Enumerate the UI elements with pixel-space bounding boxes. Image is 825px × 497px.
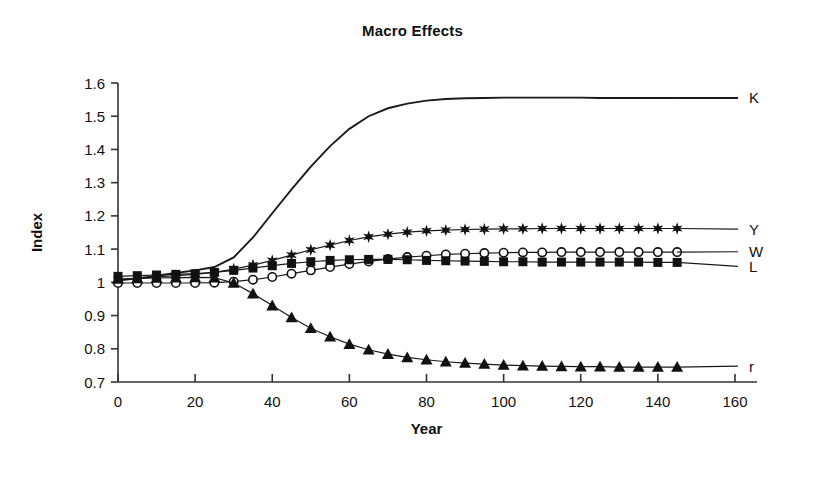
data-point-marker: [305, 322, 317, 333]
series-label-leader: [677, 262, 738, 266]
series-line: [118, 229, 677, 280]
y-axis-tick-label: 1.3: [84, 174, 105, 191]
data-point-marker: [266, 300, 278, 311]
data-point-marker: [634, 258, 643, 267]
data-point-marker: [268, 261, 277, 270]
data-point-marker: [518, 257, 527, 266]
series-line: [118, 252, 677, 283]
data-point-marker: [343, 338, 355, 349]
data-point-marker: [654, 248, 662, 256]
x-axis-tick-label: 160: [722, 393, 747, 410]
data-point-marker: [229, 266, 238, 275]
data-point-marker: [286, 312, 298, 323]
macro-effects-line-chart: 0.70.80.911.11.21.31.41.51.6020406080100…: [0, 0, 825, 497]
x-axis-title: Year: [411, 420, 443, 437]
y-axis-tick-label: 0.8: [84, 340, 105, 357]
data-point-marker: [480, 249, 488, 257]
data-point-marker: [383, 255, 392, 264]
data-point-marker: [324, 331, 336, 342]
x-axis-tick-label: 120: [568, 393, 593, 410]
x-axis-tick-label: 20: [187, 393, 204, 410]
x-axis-tick-label: 60: [341, 393, 358, 410]
series-line: [118, 277, 677, 367]
data-point-marker: [287, 259, 296, 268]
data-point-marker: [403, 255, 412, 264]
data-point-marker: [325, 239, 336, 251]
series-label-Y: Y: [749, 221, 759, 238]
data-point-marker: [499, 257, 508, 266]
data-point-marker: [461, 257, 470, 266]
data-point-marker: [615, 258, 624, 267]
data-point-marker: [594, 361, 606, 372]
data-point-marker: [248, 264, 257, 273]
chart-root: Macro Effects 0.70.80.911.11.21.31.41.51…: [0, 0, 825, 497]
data-point-marker: [345, 255, 354, 264]
data-point-marker: [306, 257, 315, 266]
data-point-marker: [615, 248, 623, 256]
series-label-L: L: [749, 258, 757, 275]
data-point-marker: [653, 258, 662, 267]
series-line: [118, 259, 677, 276]
data-point-marker: [577, 248, 585, 256]
data-point-marker: [441, 256, 450, 265]
data-point-marker: [363, 344, 375, 355]
x-axis-tick-label: 140: [645, 393, 670, 410]
x-axis-tick-label: 40: [264, 393, 281, 410]
data-point-marker: [307, 266, 315, 274]
data-point-marker: [557, 258, 566, 267]
data-point-marker: [364, 255, 373, 264]
data-point-marker: [326, 256, 335, 265]
series-label-K: K: [749, 89, 759, 106]
data-point-marker: [422, 256, 431, 265]
x-axis-tick-label: 0: [114, 393, 122, 410]
data-point-marker: [576, 258, 585, 267]
data-point-marker: [596, 248, 604, 256]
series-label-leader: [677, 366, 738, 367]
y-axis-tick-label: 1: [97, 274, 105, 291]
data-point-marker: [344, 234, 355, 246]
y-axis-tick-label: 0.9: [84, 307, 105, 324]
series-label-leader: [677, 229, 738, 230]
data-point-marker: [499, 249, 507, 257]
data-point-marker: [538, 258, 547, 267]
data-point-marker: [268, 273, 276, 281]
y-axis-tick-label: 1.1: [84, 241, 105, 258]
data-point-marker: [538, 248, 546, 256]
series-label-r: r: [749, 358, 754, 375]
x-axis-tick-label: 80: [418, 393, 435, 410]
y-axis-tick-label: 1.4: [84, 141, 105, 158]
y-axis-tick-label: 1.6: [84, 75, 105, 92]
data-point-marker: [247, 288, 259, 299]
x-axis-tick-label: 100: [491, 393, 516, 410]
y-axis-tick-label: 1.2: [84, 207, 105, 224]
series-L: L: [114, 255, 758, 281]
y-axis-title: Index: [28, 212, 45, 252]
data-point-marker: [557, 248, 565, 256]
data-point-marker: [519, 248, 527, 256]
data-point-marker: [480, 257, 489, 266]
data-point-marker: [249, 275, 257, 283]
y-axis-tick-label: 0.7: [84, 374, 105, 391]
data-point-marker: [287, 269, 295, 277]
data-point-marker: [596, 258, 605, 267]
y-axis-tick-label: 1.5: [84, 108, 105, 125]
series-r: r: [112, 271, 754, 374]
data-point-marker: [305, 244, 316, 256]
data-point-marker: [634, 248, 642, 256]
series-line: [118, 98, 677, 281]
